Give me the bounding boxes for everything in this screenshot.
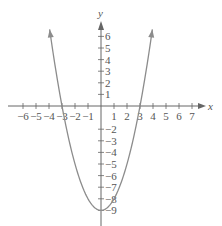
y-tick-label: 4: [105, 54, 111, 66]
parabola-chart: −6−5−4−3−2−11234567−9−8−7−6−5−4−3−212345…: [0, 0, 222, 226]
y-tick-label: −2: [105, 123, 117, 135]
x-tick-label: −2: [69, 110, 81, 122]
x-axis-label: x: [207, 100, 213, 112]
x-tick-label: 4: [150, 110, 156, 122]
y-tick-label: −7: [105, 181, 117, 193]
x-tick-label: −6: [17, 110, 29, 122]
curve-arrow-icon: [148, 29, 154, 37]
y-axis-arrow-icon: [98, 21, 104, 30]
y-tick-label: −9: [105, 204, 117, 216]
y-tick-label: −3: [105, 135, 117, 147]
y-tick-label: 6: [105, 30, 111, 42]
tick-labels: −6−5−4−3−2−11234567−9−8−7−6−5−4−3−212345…: [17, 30, 195, 216]
y-tick-label: −6: [105, 170, 117, 182]
x-tick-label: 5: [163, 110, 169, 122]
y-tick-label: 1: [105, 88, 111, 100]
y-tick-label: 2: [105, 77, 111, 89]
x-tick-label: −4: [43, 110, 55, 122]
x-tick-label: 7: [189, 110, 195, 122]
x-axis-arrow-icon: [198, 103, 206, 109]
x-tick-label: −3: [56, 110, 68, 122]
y-tick-label: −4: [105, 146, 117, 158]
y-tick-label: 5: [105, 42, 111, 54]
curve-arrow-icon: [48, 29, 54, 37]
x-tick-label: −5: [30, 110, 42, 122]
x-tick-label: −1: [82, 110, 94, 122]
x-tick-label: 2: [124, 110, 130, 122]
x-tick-label: 6: [176, 110, 182, 122]
x-tick-label: 1: [111, 110, 117, 122]
y-axis-label: y: [97, 7, 103, 19]
y-tick-label: −5: [105, 158, 117, 170]
y-tick-label: 3: [105, 65, 111, 77]
